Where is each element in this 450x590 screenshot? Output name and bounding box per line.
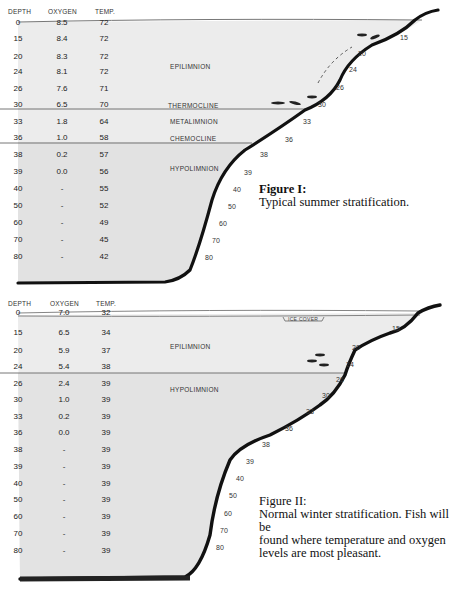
- zone-epilimnion: EPILIMNION: [170, 343, 211, 350]
- header-depth: DEPTH: [8, 8, 31, 15]
- header-oxygen: OXYGEN: [50, 300, 79, 307]
- header-temp: TEMP.: [95, 8, 115, 15]
- header-temp: TEMP.: [96, 300, 116, 307]
- header-oxygen: OXYGEN: [48, 8, 77, 15]
- caption-line-3: levels are most pleasant.: [259, 547, 450, 560]
- label-ice-cover: ICE COVER: [288, 316, 318, 322]
- figure-winter-stratification: DEPTH OXYGEN TEMP. 07.032 156.534 205.93…: [0, 295, 450, 590]
- lake-cross-section-summer: [0, 0, 450, 290]
- zone-epilimnion: EPILIMNION: [170, 63, 211, 70]
- zone-thermocline: THERMOCLINE: [168, 102, 219, 109]
- lake-floor: [20, 578, 190, 579]
- header-depth: DEPTH: [8, 300, 31, 307]
- zone-hypolimnion: HYPOLIMNION: [170, 165, 219, 172]
- ice-surface-line: [18, 310, 420, 313]
- caption-figure-1: Figure I: Typical summer stratification.: [259, 183, 409, 209]
- zone-hypolimnion: HYPOLIMNION: [170, 386, 219, 393]
- figure-summer-stratification: DEPTH OXYGEN TEMP. 08.572 158.472 208.37…: [0, 0, 450, 290]
- zone-chemocline: CHEMOCLINE: [170, 135, 216, 142]
- zone-metalimnion: METALIMNION: [170, 118, 218, 125]
- caption-text: Typical summer stratification.: [259, 196, 409, 209]
- caption-line-1: Normal winter stratification. Fish will …: [259, 508, 450, 534]
- caption-figure-2: Figure II: Normal winter stratification.…: [259, 495, 450, 560]
